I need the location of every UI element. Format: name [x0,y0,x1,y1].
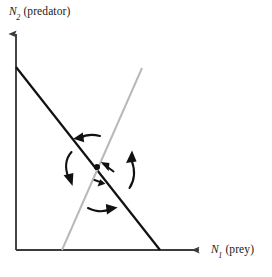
equilibrium-point [94,164,100,170]
phase-plane-figure: N2(predator) N1(prey) [0,0,272,277]
prey-isocline-line [16,67,160,250]
x-axis-label: N1(prey) [211,243,254,258]
convergence-arrow-upper [101,162,114,172]
y-axis-description: (predator) [23,5,70,17]
trajectory-arrow-right [126,151,137,189]
trajectory-arrow-upper-left [73,133,100,143]
x-axis-subscript: 1 [218,251,222,260]
y-axis-subscript: 2 [16,13,20,22]
x-axis-description: (prey) [225,243,254,255]
trajectory-arrow-left [64,152,74,186]
trajectory-arrow-lower [88,204,118,215]
phase-plane-plot [0,0,272,277]
y-axis-label: N2(predator) [9,5,70,20]
